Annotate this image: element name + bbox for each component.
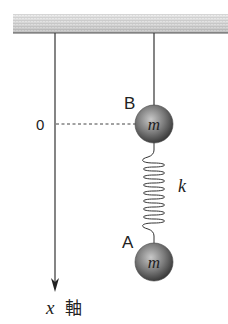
mass-a-label: A <box>122 233 134 252</box>
mass-b-label: B <box>124 94 135 113</box>
origin-label: 0 <box>36 116 44 133</box>
spring-mass-diagram: 0 k m B m A x 軸 <box>0 0 228 324</box>
ceiling <box>13 14 228 33</box>
x-axis-label-text: 軸 <box>65 298 82 318</box>
x-axis-variable: x <box>45 297 55 318</box>
spring-constant-label: k <box>178 176 187 196</box>
mass-b: m <box>135 105 173 143</box>
mass-a: m <box>135 243 173 281</box>
mass-b-symbol: m <box>148 115 160 134</box>
x-axis <box>51 33 59 292</box>
mass-a-symbol: m <box>148 253 160 272</box>
spring <box>143 143 165 243</box>
